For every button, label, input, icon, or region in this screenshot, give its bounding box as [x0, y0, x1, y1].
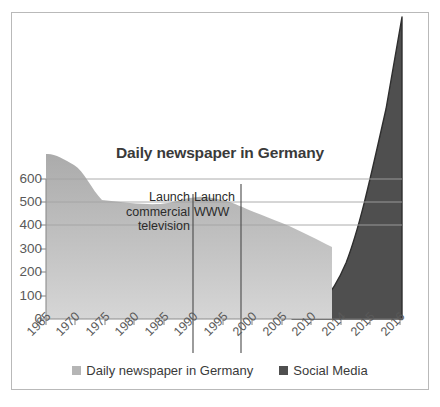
- chart-legend: Daily newspaper in Germany Social Media: [0, 364, 440, 377]
- y-tick-label-600: 600: [8, 171, 42, 186]
- legend-swatch-social-media-icon: [279, 366, 288, 375]
- annotation-tv-line3: television: [112, 219, 190, 234]
- legend-swatch-newspaper-icon: [72, 366, 81, 375]
- annotation-www-line1: Launch: [194, 190, 256, 205]
- y-tick-label-100: 100: [8, 288, 42, 303]
- legend-label-newspaper: Daily newspaper in Germany: [86, 364, 253, 377]
- annotation-tv-line1: Launch: [112, 190, 190, 205]
- chart-title: Daily newspaper in Germany: [0, 144, 440, 162]
- y-tick-label-200: 200: [8, 264, 42, 279]
- annotation-www-line2: WWW: [194, 205, 256, 220]
- annotation-tv-line2: commercial: [112, 205, 190, 220]
- y-tick-label-500: 500: [8, 194, 42, 209]
- annotation-launch-www: Launch WWW: [194, 190, 256, 219]
- legend-label-social-media: Social Media: [293, 364, 367, 377]
- legend-item-social-media[interactable]: Social Media: [279, 364, 367, 377]
- annotation-launch-commercial-television: Launch commercial television: [112, 190, 190, 234]
- y-tick-label-300: 300: [8, 241, 42, 256]
- legend-item-newspaper[interactable]: Daily newspaper in Germany: [72, 364, 253, 377]
- y-tick-label-400: 400: [8, 217, 42, 232]
